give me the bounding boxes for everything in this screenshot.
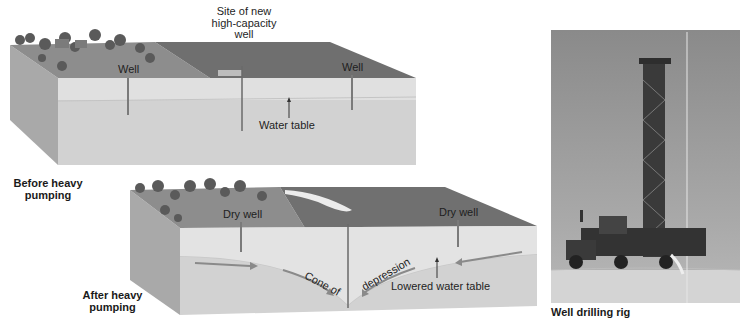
caption-line: Before heavy <box>12 177 84 189</box>
label-well-left: Well <box>118 64 139 76</box>
label-line: well <box>204 29 284 41</box>
caption-line: After heavy <box>80 289 145 301</box>
caption-before-pumping: Before heavy pumping <box>12 177 84 201</box>
label-site-new-well: Site of new high-capacity well <box>204 6 284 41</box>
label-dry-well-right: Dry well <box>439 207 478 219</box>
label-well-right: Well <box>342 62 363 74</box>
before-block <box>10 29 416 165</box>
caption-drilling-rig: Well drilling rig <box>551 306 630 318</box>
drilling-rig-photo <box>551 30 740 303</box>
label-line: Site of new <box>204 6 284 18</box>
caption-line: pumping <box>80 301 145 313</box>
label-lowered-water-table: Lowered water table <box>391 281 490 293</box>
drilling-rig-illustration <box>551 30 740 303</box>
caption-after-pumping: After heavy pumping <box>80 289 145 313</box>
label-water-table: Water table <box>259 120 315 132</box>
caption-line: pumping <box>12 189 84 201</box>
label-dry-well-left: Dry well <box>223 209 262 221</box>
